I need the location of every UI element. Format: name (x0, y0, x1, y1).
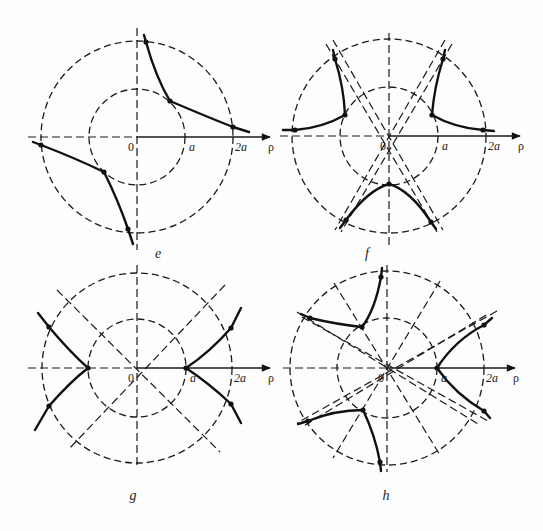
intersection-dot (332, 56, 337, 61)
panel-h: 0a2aρh (283, 265, 519, 503)
rho-axis-label: ρ (518, 139, 524, 153)
intersection-dot (307, 315, 312, 320)
intersection-dot (38, 142, 43, 147)
origin-label: 0 (128, 140, 134, 154)
intersection-dot (228, 325, 233, 330)
polar-diagrams-figure: 0a2aρe0a2aρf0a2aρg0a2aρh (0, 0, 543, 531)
dashed-guide-line (297, 311, 497, 423)
intersection-dot (101, 169, 106, 174)
origin-label: 0 (378, 371, 384, 385)
solution-curve (298, 410, 381, 471)
intersection-dot (167, 98, 172, 103)
intersection-dot (125, 226, 130, 231)
intersection-dot (360, 407, 365, 412)
intersection-dot (378, 274, 383, 279)
panel-caption: g (130, 488, 137, 503)
solution-curve (144, 35, 249, 132)
intersection-dot (481, 408, 486, 413)
panel-f: 0a2aρf (280, 33, 524, 261)
outer-radius-label: 2a (234, 371, 246, 385)
intersection-dot (85, 365, 90, 370)
dashed-guide-line (326, 44, 437, 232)
intersection-dot (292, 127, 297, 132)
outer-radius-label: 2a (235, 140, 247, 154)
panel-caption: e (155, 246, 161, 261)
rho-axis-label: ρ (268, 371, 274, 385)
solution-curve (283, 50, 345, 130)
origin-label: 0 (380, 139, 386, 153)
inner-radius-label: a (189, 140, 195, 154)
solution-curve (35, 313, 88, 430)
dashed-guide-line (302, 317, 488, 421)
inner-radius-label: a (441, 371, 447, 385)
outer-radius-label: 2a (488, 139, 500, 153)
intersection-dot (386, 181, 391, 186)
intersection-dot (46, 324, 51, 329)
panel-caption: f (365, 246, 371, 261)
solution-curve (301, 268, 382, 327)
intersection-dot (342, 112, 347, 117)
figure-canvas: 0a2aρe0a2aρf0a2aρg0a2aρh (0, 0, 543, 531)
solution-curve (33, 142, 133, 244)
inner-radius-label: a (442, 139, 448, 153)
intersection-dot (143, 39, 148, 44)
panel-caption: h (383, 488, 390, 503)
dashed-guide-line (333, 40, 443, 230)
intersection-dot (377, 459, 382, 464)
rho-axis-label: ρ (513, 371, 519, 385)
intersection-dot (228, 401, 233, 406)
solution-curve (340, 184, 436, 229)
solution-curve (432, 50, 494, 131)
origin-label: 0 (128, 371, 134, 385)
intersection-dot (183, 365, 188, 370)
rho-axis-label: ρ (268, 140, 274, 154)
intersection-dot (428, 219, 433, 224)
intersection-dot (440, 56, 445, 61)
intersection-dot (343, 217, 348, 222)
outer-radius-label: 2a (486, 371, 498, 385)
dashed-guide-line (341, 44, 452, 232)
intersection-dot (230, 124, 235, 129)
panel-e: 0a2aρe (28, 28, 274, 261)
intersection-dot (480, 127, 485, 132)
intersection-dot (434, 365, 439, 370)
intersection-dot (481, 322, 486, 327)
intersection-dot (46, 403, 51, 408)
dashed-guide-line (335, 40, 445, 230)
intersection-dot (305, 418, 310, 423)
intersection-dot (359, 324, 364, 329)
inner-radius-label: a (190, 371, 196, 385)
intersection-dot (429, 112, 434, 117)
panel-g: 0a2aρg (28, 265, 274, 503)
